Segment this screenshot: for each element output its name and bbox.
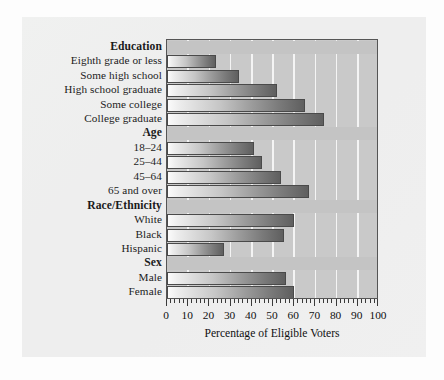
bar-fill <box>167 55 216 68</box>
section-header-label: Race/Ethnicity <box>4 199 166 212</box>
bar-chart: EducationEighth grade or lessSome high s… <box>0 0 444 380</box>
x-tick-label: 0 <box>163 308 169 322</box>
bar <box>167 214 294 227</box>
x-tick-label: 10 <box>181 308 192 322</box>
major-tick <box>336 299 337 306</box>
bar-fill <box>167 70 239 83</box>
x-tick-label: 80 <box>330 308 341 322</box>
x-tick-label: 30 <box>224 308 235 322</box>
major-tick <box>357 299 358 306</box>
minor-tick <box>234 299 235 303</box>
minor-tick <box>255 299 256 303</box>
bar <box>167 272 286 285</box>
category-label: Hispanic <box>4 242 166 255</box>
category-label: College graduate <box>4 112 166 125</box>
minor-tick <box>204 299 205 303</box>
x-tick-label: 70 <box>309 308 320 322</box>
minor-tick <box>285 299 286 303</box>
minor-tick <box>191 299 192 303</box>
bar-fill <box>167 99 305 112</box>
category-label: Black <box>4 228 166 241</box>
minor-tick <box>242 299 243 303</box>
minor-tick <box>276 299 277 303</box>
minor-tick <box>319 299 320 303</box>
bar <box>167 99 305 112</box>
chart-page: EducationEighth grade or lessSome high s… <box>0 0 444 380</box>
x-axis-tick-labels: 0102030405060708090100 <box>166 308 378 324</box>
category-label: 45–64 <box>4 170 166 183</box>
minor-tick <box>221 299 222 303</box>
category-label: Female <box>4 285 166 298</box>
x-tick-label: 100 <box>369 308 386 322</box>
plot-area <box>166 39 378 299</box>
minor-tick <box>170 299 171 303</box>
minor-tick <box>280 299 281 303</box>
minor-tick <box>238 299 239 303</box>
minor-tick <box>302 299 303 303</box>
bar-fill <box>167 185 309 198</box>
major-tick <box>208 299 209 306</box>
minor-tick <box>353 299 354 303</box>
category-label: Eighth grade or less <box>4 54 166 67</box>
bar <box>167 286 294 299</box>
section-gap <box>167 41 377 54</box>
category-label: 25–44 <box>4 155 166 168</box>
minor-tick <box>306 299 307 303</box>
bar <box>167 113 324 126</box>
minor-tick <box>374 299 375 303</box>
x-tick-label: 90 <box>351 308 362 322</box>
x-tick-label: 20 <box>203 308 214 322</box>
category-label: Male <box>4 271 166 284</box>
section-gap <box>167 127 377 140</box>
minor-tick <box>289 299 290 303</box>
minor-tick <box>196 299 197 303</box>
bar-fill <box>167 84 277 97</box>
section-header-label: Education <box>4 40 166 53</box>
major-tick <box>166 299 167 306</box>
category-label: 65 and over <box>4 184 166 197</box>
x-tick-label: 50 <box>266 308 277 322</box>
minor-tick <box>370 299 371 303</box>
minor-tick <box>327 299 328 303</box>
section-gap <box>167 200 377 213</box>
major-tick <box>187 299 188 306</box>
minor-tick <box>297 299 298 303</box>
minor-tick <box>259 299 260 303</box>
minor-tick <box>344 299 345 303</box>
minor-tick <box>179 299 180 303</box>
minor-tick <box>174 299 175 303</box>
minor-tick <box>217 299 218 303</box>
section-header-label: Sex <box>4 256 166 269</box>
section-gap <box>167 257 377 270</box>
bar <box>167 142 254 155</box>
bar-fill <box>167 171 281 184</box>
x-tick-label: 40 <box>245 308 256 322</box>
minor-tick <box>310 299 311 303</box>
bar-fill <box>167 156 262 169</box>
bar <box>167 156 262 169</box>
bar-fill <box>167 286 294 299</box>
bar <box>167 171 281 184</box>
category-label: Some high school <box>4 69 166 82</box>
bar-fill <box>167 243 224 256</box>
major-tick <box>272 299 273 306</box>
bar-fill <box>167 229 284 242</box>
minor-tick <box>213 299 214 303</box>
bar-fill <box>167 214 294 227</box>
major-tick <box>377 299 378 306</box>
major-tick <box>314 299 315 306</box>
minor-tick <box>225 299 226 303</box>
x-axis-ticks <box>166 299 378 307</box>
bar-fill <box>167 113 324 126</box>
minor-tick <box>247 299 248 303</box>
minor-tick <box>323 299 324 303</box>
minor-tick <box>340 299 341 303</box>
bar-fill <box>167 142 254 155</box>
category-label: Some college <box>4 98 166 111</box>
minor-tick <box>268 299 269 303</box>
x-tick-label: 60 <box>287 308 298 322</box>
section-header-label: Age <box>4 126 166 139</box>
category-axis-labels: EducationEighth grade or lessSome high s… <box>0 39 166 299</box>
bar <box>167 243 224 256</box>
minor-tick <box>183 299 184 303</box>
